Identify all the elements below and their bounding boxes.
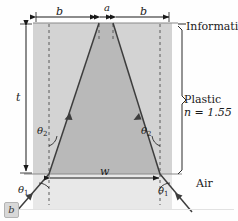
angle-label-theta2-left: θ2 (37, 126, 48, 138)
theta2-left-subscript: 2 (43, 130, 47, 138)
air-label: Air (196, 178, 213, 189)
air-region (33, 174, 172, 209)
angle-label-theta2-right: θ2 (141, 126, 152, 138)
angle-label-theta1-left: θ1 (18, 185, 29, 197)
theta1-left-subscript: 1 (24, 189, 28, 197)
dimension-label-thickness: t (16, 92, 20, 103)
refractive-index-label: n = 1.55 (184, 107, 232, 118)
angle-label-theta1-right: θ1 (158, 186, 169, 198)
caption-divider (20, 209, 234, 210)
theta2-right-subscript: 2 (147, 130, 151, 138)
theta1-right-subscript: 1 (164, 190, 168, 198)
panel-label-badge: b (4, 202, 19, 218)
dimension-label-b-left: b (56, 6, 63, 17)
plastic-label: Plastic (184, 94, 221, 105)
dimension-label-beam-width: w (100, 166, 109, 177)
optics-figure-panel-b: b a b t w θ2 θ2 θ1 θ1 Information layer … (0, 0, 238, 221)
dimension-label-a: a (104, 3, 110, 13)
information-layer-label: Information layer (186, 20, 238, 33)
dimension-label-b-right: b (140, 6, 147, 17)
